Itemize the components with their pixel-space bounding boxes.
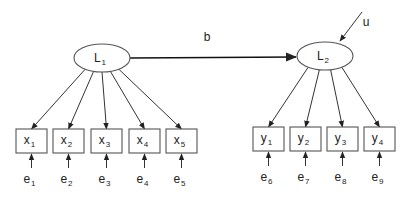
loading-arrow bbox=[331, 70, 343, 127]
sem-diagram: L1L2bux1e1x2e2x3e3x4e4x5e5y1e6y2e7y3e8y4… bbox=[0, 0, 406, 198]
sem-diagram-canvas: L1L2bux1e1x2e2x3e3x4e4x5e5y1e6y2e7y3e8y4… bbox=[0, 0, 406, 198]
error-label: e7 bbox=[297, 170, 310, 186]
disturbance-label-u: u bbox=[363, 15, 370, 29]
error-label: e2 bbox=[60, 172, 73, 188]
loading-arrow bbox=[119, 69, 182, 129]
latent-l2: L2 bbox=[297, 42, 353, 70]
nodes-layer: L1L2bux1e1x2e2x3e3x4e4x5e5y1e6y2e7y3e8y4… bbox=[16, 15, 395, 188]
error-label: e1 bbox=[23, 172, 36, 188]
disturbance-arrow bbox=[340, 12, 362, 41]
error-label: e4 bbox=[136, 172, 149, 188]
loading-arrow bbox=[69, 71, 94, 129]
latent-l1: L1 bbox=[74, 44, 130, 72]
loading-arrow bbox=[342, 67, 380, 127]
error-label: e8 bbox=[334, 170, 347, 186]
error-label: e6 bbox=[260, 170, 273, 186]
loading-arrow bbox=[32, 69, 86, 129]
error-label: e5 bbox=[173, 172, 186, 188]
error-label: e9 bbox=[371, 170, 384, 186]
loading-arrow bbox=[306, 70, 320, 127]
path-label-b: b bbox=[204, 30, 211, 44]
loading-arrow bbox=[110, 71, 144, 129]
loading-arrow bbox=[269, 67, 309, 127]
loading-arrow bbox=[102, 72, 107, 129]
error-label: e3 bbox=[98, 172, 111, 188]
structural-path-arrow bbox=[130, 57, 296, 58]
